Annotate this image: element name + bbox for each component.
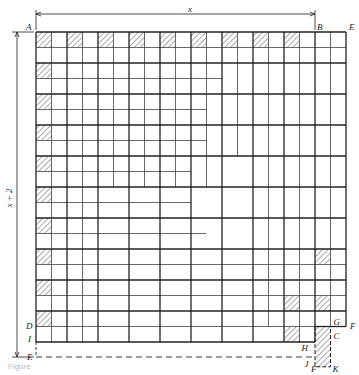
hatched-cell (36, 280, 52, 296)
figure-caption: Figure (8, 362, 31, 371)
hatched-cell (98, 32, 114, 48)
hatched-cell (36, 311, 52, 327)
hatched-cells (36, 32, 331, 367)
hatched-cell (129, 32, 145, 48)
hatched-cell (36, 32, 52, 48)
label-i: I (27, 334, 32, 344)
dimension-label-x: x (187, 4, 192, 14)
hatched-cell (191, 32, 207, 48)
hatched-cell (36, 94, 52, 110)
label-e-bottom: E (26, 352, 33, 362)
hatched-cell (222, 32, 238, 48)
hatched-cell (160, 32, 176, 48)
label-g: G (334, 317, 341, 327)
label-k: K (332, 364, 340, 374)
hatched-cell (36, 218, 52, 234)
label-f-bottom: F (310, 364, 317, 374)
label-j: J (305, 359, 310, 369)
dimension-label-x-plus-2: x + 2 (4, 188, 14, 209)
label-d: D (25, 321, 33, 331)
hatched-cell (36, 63, 52, 79)
point-labels: xx + 2ABEFGCHJDIEFK (4, 4, 356, 374)
label-f-right: F (349, 321, 356, 331)
label-b: B (317, 22, 323, 32)
hatched-cell (284, 327, 300, 343)
hatched-cell (36, 156, 52, 172)
hatched-strip (315, 327, 331, 367)
label-e-top: E (348, 22, 355, 32)
hatched-cell (284, 296, 300, 312)
hatched-cell (67, 32, 83, 48)
hatched-cell (253, 32, 269, 48)
label-h: H (301, 343, 309, 353)
hatched-cell (36, 125, 52, 141)
label-a: A (25, 22, 32, 32)
hatched-cell (36, 187, 52, 203)
hatched-cell (315, 249, 331, 265)
hatched-cell (284, 32, 300, 48)
hatched-cell (315, 296, 331, 312)
hatched-cell (36, 249, 52, 265)
grid-diagram: xx + 2ABEFGCHJDIEFK (0, 0, 359, 375)
label-c: C (334, 331, 341, 341)
